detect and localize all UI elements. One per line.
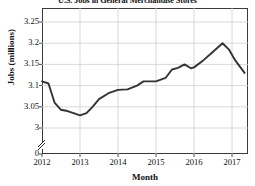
y-tick-label: 3.05 [0, 101, 39, 111]
x-tick-label: 2014 [101, 157, 135, 167]
y-tick-label: 3 [0, 122, 39, 132]
x-tick-label: 2017 [215, 157, 249, 167]
y-tick-label: 3.25 [0, 16, 39, 26]
x-tick-label: 2016 [177, 157, 211, 167]
x-axis-label: Month [42, 172, 248, 182]
y-tick-label: 3.2 [0, 37, 39, 47]
y-tick-label: 3.15 [0, 58, 39, 68]
plot-area [42, 8, 248, 154]
y-tick-label: 3.1 [0, 80, 39, 90]
x-tick-label: 2013 [63, 157, 97, 167]
chart-figure: U.S. Jobs in General Merchandise Stores … [0, 0, 255, 186]
x-tick-label: 2012 [25, 157, 59, 167]
x-tick-label: 2015 [139, 157, 173, 167]
